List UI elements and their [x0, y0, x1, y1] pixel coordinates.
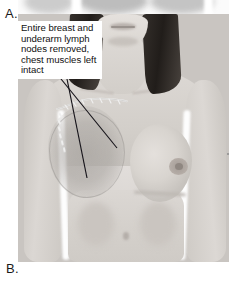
chin-shadow [108, 37, 138, 46]
bottom-margin [0, 262, 229, 285]
hair-right [142, 14, 182, 94]
panel-label-a: A. [5, 6, 18, 21]
residue-blob [24, 0, 74, 14]
abdomen-shadow [78, 202, 114, 246]
annotation-text: Entire breast and underarm lymph nodes r… [18, 21, 102, 79]
lip-line [111, 26, 135, 28]
navel [123, 232, 129, 240]
panel-label-b: B. [6, 261, 19, 276]
residue-blob [78, 0, 148, 14]
nipple [175, 163, 183, 170]
surgical-scar [56, 96, 128, 112]
arm-right [186, 80, 226, 262]
image-speck [227, 153, 229, 155]
left-margin [0, 0, 18, 285]
abdomen-shadow [140, 202, 176, 246]
medical-figure: Entire breast and underarm lymph nodes r… [0, 0, 229, 285]
